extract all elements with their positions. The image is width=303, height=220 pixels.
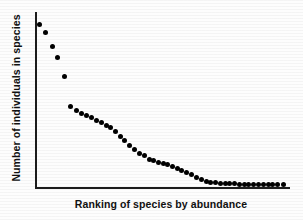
data-point: [55, 55, 60, 60]
data-point: [113, 129, 118, 134]
data-point: [99, 120, 104, 125]
data-point: [62, 74, 67, 79]
data-point: [68, 104, 73, 109]
data-point: [261, 182, 266, 187]
data-point: [127, 143, 132, 148]
data-point: [43, 30, 48, 35]
data-point: [132, 147, 137, 152]
data-point: [156, 160, 161, 165]
data-point: [179, 168, 184, 173]
data-point: [213, 180, 218, 185]
data-point: [184, 170, 189, 175]
data-point: [251, 182, 256, 187]
data-point: [246, 182, 251, 187]
data-point: [208, 180, 213, 185]
data-point: [50, 44, 55, 49]
y-axis-line: [35, 12, 37, 189]
data-point: [237, 182, 242, 187]
rank-abundance-figure: Number of individuals in species Ranking…: [0, 0, 303, 220]
data-point: [256, 182, 261, 187]
data-point: [108, 125, 113, 130]
data-point: [74, 108, 79, 113]
data-point: [137, 151, 142, 156]
data-point: [94, 118, 99, 123]
data-point: [194, 175, 199, 180]
data-point: [189, 172, 194, 177]
data-point: [281, 182, 286, 187]
data-point: [142, 153, 147, 158]
data-point: [275, 182, 280, 187]
data-point: [170, 164, 175, 169]
data-point: [79, 111, 84, 116]
data-point: [199, 177, 204, 182]
data-point: [227, 181, 232, 186]
x-axis-label: Ranking of species by abundance: [32, 198, 290, 210]
data-point: [84, 113, 89, 118]
data-point: [218, 181, 223, 186]
data-point: [165, 162, 170, 167]
data-point: [151, 158, 156, 163]
plot-area: [0, 0, 303, 220]
x-axis-line: [35, 187, 290, 189]
data-point: [122, 138, 127, 143]
data-point: [270, 182, 275, 187]
data-point: [232, 181, 237, 186]
data-point: [37, 22, 42, 27]
data-point: [89, 115, 94, 120]
